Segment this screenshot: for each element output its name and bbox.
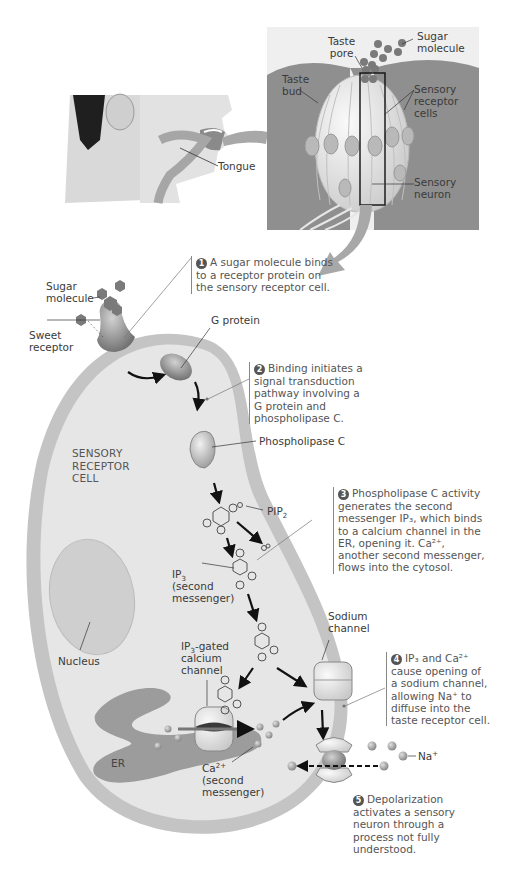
label-text: Ca xyxy=(202,762,216,774)
step-line: phospholipase C. xyxy=(254,412,363,424)
step-line: understood. xyxy=(353,843,455,855)
mouth-to-bud-arrow xyxy=(222,131,268,146)
label-superscript: 2+ xyxy=(216,762,226,770)
label-line: (second xyxy=(202,774,264,786)
label-line: molecule xyxy=(46,292,94,304)
step-line: G protein and xyxy=(254,400,363,412)
label-sugar-molecule: Sugar molecule xyxy=(46,280,94,304)
step-line: another second messenger, xyxy=(338,549,485,561)
label-line: calcium xyxy=(181,652,229,664)
step-line: Phospholipase C activity xyxy=(352,487,480,499)
label-taste-pore: Taste pore xyxy=(328,35,355,59)
label-sweet-receptor: Sweet receptor xyxy=(29,329,73,353)
label-superscript: + xyxy=(432,750,438,758)
step-line: a sodium channel, xyxy=(391,677,490,689)
label-line: Taste xyxy=(282,73,309,85)
step-line: A sugar molecule binds xyxy=(210,256,333,268)
taste-transduction-figure: Taste pore Sugar molecule Taste bud Sens… xyxy=(0,0,506,878)
step-4-callout: 4IP₃ and Ca²⁺ cause opening of a sodium … xyxy=(386,652,490,726)
step-2-callout: 2Binding initiates a signal transduction… xyxy=(249,362,363,424)
head-illustration xyxy=(65,94,232,203)
step-line: Binding initiates a xyxy=(268,362,363,374)
label-phospholipase-c: Phospholipase C xyxy=(259,435,345,447)
label-na: Na+ xyxy=(418,750,438,762)
sweet-receptor xyxy=(97,296,135,352)
title-line: SENSORY xyxy=(72,447,130,460)
label-line: Sensory xyxy=(414,83,458,95)
label-line: (second xyxy=(172,580,234,592)
label-line: messenger) xyxy=(202,786,264,798)
step-line: IP₃ and Ca²⁺ xyxy=(405,652,469,664)
step-line: the sensory receptor cell. xyxy=(196,281,333,293)
step-line: cause opening of xyxy=(391,665,490,677)
step-number-badge: 4 xyxy=(391,654,402,665)
step-line: generates the second xyxy=(338,500,485,512)
label-ip3: IP3 (second messenger) xyxy=(172,568,234,604)
step-5-callout: 5Depolarization activates a sensory neur… xyxy=(349,793,455,855)
label-line: molecule xyxy=(417,42,465,54)
step-number-badge: 5 xyxy=(353,795,364,806)
step-line: activates a sensory xyxy=(353,806,455,818)
step-line: flows into the cytosol. xyxy=(338,561,485,573)
label-line: pore xyxy=(328,47,355,59)
label-sodium-channel: Sodium channel xyxy=(328,610,370,634)
label-line: bud xyxy=(282,85,309,97)
label-nucleus: Nucleus xyxy=(58,655,100,667)
step-line: Depolarization xyxy=(367,793,443,805)
step-number-badge: 1 xyxy=(196,258,207,269)
step-line: diffuse into the xyxy=(391,702,490,714)
label-sensory-neuron: Sensory neuron xyxy=(414,176,456,200)
step-number-badge: 2 xyxy=(254,364,265,375)
label-ip3-gated-channel: IP3-gated calcium channel xyxy=(181,640,229,676)
title-line: CELL xyxy=(72,472,130,485)
label-taste-bud: Taste bud xyxy=(282,73,309,97)
label-g-protein: G protein xyxy=(211,314,260,326)
step-line: allowing Na⁺ to xyxy=(391,690,490,702)
label-line: receptor xyxy=(29,341,73,353)
label-line: cells xyxy=(414,107,458,119)
label-er: ER xyxy=(111,757,125,769)
label-line: Sodium xyxy=(328,610,370,622)
step-line: ER, opening it. Ca²⁺, xyxy=(338,537,485,549)
label-line: Sugar xyxy=(417,30,465,42)
diagram-graphics xyxy=(0,0,506,878)
step-line: signal transduction xyxy=(254,375,363,387)
label-text: Na xyxy=(418,750,432,762)
label-pip2: PIP2 xyxy=(267,505,287,517)
label-line: receptor xyxy=(414,95,458,107)
label-sensory-receptor-cells: Sensory receptor cells xyxy=(414,83,458,119)
step-line: messenger IP₃, which binds xyxy=(338,512,485,524)
step-line: pathway involving a xyxy=(254,387,363,399)
step-number-badge: 3 xyxy=(338,489,349,500)
step-line: process not fully xyxy=(353,831,455,843)
step-line: to a calcium channel in the xyxy=(338,525,485,537)
label-line: neuron xyxy=(414,188,456,200)
label-text: -gated xyxy=(195,640,229,652)
step-1-callout: 1A sugar molecule binds to a receptor pr… xyxy=(191,256,333,294)
step-line: taste receptor cell. xyxy=(391,714,490,726)
label-line: Sweet xyxy=(29,329,73,341)
step-line: to a receptor protein on xyxy=(196,269,333,281)
label-tongue: Tongue xyxy=(218,160,256,172)
label-line: Sensory xyxy=(414,176,456,188)
step-3-callout: 3Phospholipase C activity generates the … xyxy=(333,487,485,574)
label-line: messenger) xyxy=(172,592,234,604)
label-ca: Ca2+ (second messenger) xyxy=(202,762,264,798)
label-text: PIP xyxy=(267,505,283,517)
label-line: channel xyxy=(328,622,370,634)
title-line: RECEPTOR xyxy=(72,460,130,473)
label-line: Sugar xyxy=(46,280,94,292)
label-line: channel xyxy=(181,664,229,676)
label-line: Taste xyxy=(328,35,355,47)
cell-title: SENSORY RECEPTOR CELL xyxy=(72,447,130,485)
label-subscript: 2 xyxy=(283,512,287,520)
step-line: neuron through a xyxy=(353,818,455,830)
label-sugar-molecule-overview: Sugar molecule xyxy=(417,30,465,54)
